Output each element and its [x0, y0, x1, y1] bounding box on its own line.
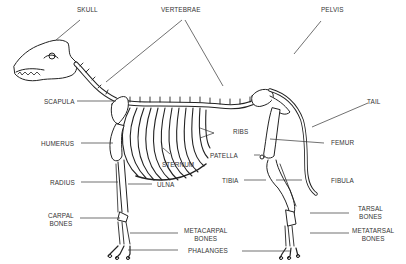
ribs-bone — [122, 108, 210, 180]
label-sternum: STERNUM — [162, 161, 194, 169]
label-skull: SKULL — [77, 6, 98, 14]
label-scapula: SCAPULA — [44, 98, 75, 106]
label-carpal-line1: CARPAL — [48, 212, 74, 220]
label-metacarpal-bones: METACARPAL BONES — [184, 227, 227, 242]
label-tarsal-line1: TARSAL — [358, 205, 383, 213]
pelvis-bone — [252, 89, 274, 106]
label-metacarpal-line2: BONES — [184, 235, 227, 243]
label-metatarsal-line1: METATARSAL — [352, 227, 394, 235]
leader-lines — [56, 20, 368, 251]
label-vertebrae: VERTEBRAE — [161, 6, 201, 14]
front-leg-bones — [108, 124, 130, 260]
hind-leg-bones — [260, 108, 300, 260]
label-phalanges: PHALANGES — [188, 247, 228, 255]
label-humerus: HUMERUS — [41, 140, 74, 148]
label-carpal-line2: BONES — [48, 220, 74, 228]
label-femur: FEMUR — [331, 139, 354, 147]
label-metatarsal-bones: METATARSAL BONES — [352, 227, 394, 242]
label-metatarsal-line2: BONES — [352, 235, 394, 243]
label-fibula: FIBULA — [331, 177, 354, 185]
label-tibia: TIBIA — [222, 177, 238, 185]
label-tarsal-line2: BONES — [358, 213, 383, 221]
label-carpal-bones: CARPAL BONES — [48, 212, 74, 227]
skull-bone — [14, 40, 77, 81]
label-radius: RADIUS — [50, 179, 75, 187]
label-tarsal-bones: TARSAL BONES — [358, 205, 383, 220]
vertebrae-bone — [76, 63, 258, 107]
label-pelvis: PELVIS — [321, 6, 344, 14]
label-ribs: RIBS — [233, 128, 248, 136]
label-tail: TAIL — [367, 98, 380, 106]
label-ulna: ULNA — [157, 181, 174, 189]
label-patella: PATELLA — [210, 152, 238, 160]
label-metacarpal-line1: METACARPAL — [184, 227, 227, 235]
